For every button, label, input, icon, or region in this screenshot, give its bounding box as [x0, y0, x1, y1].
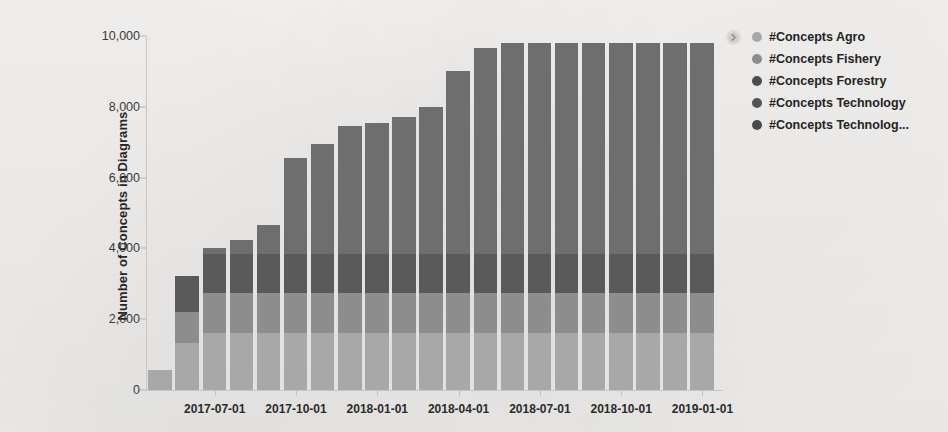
bar-segment[interactable] — [230, 333, 253, 390]
bar-segment[interactable] — [501, 293, 524, 334]
bar-segment[interactable] — [311, 254, 334, 293]
bar-segment[interactable] — [230, 293, 253, 334]
bar-segment[interactable] — [203, 248, 226, 253]
bar-segment[interactable] — [446, 293, 469, 334]
bar-segment[interactable] — [148, 370, 171, 390]
bar-segment[interactable] — [609, 43, 632, 254]
bar-segment[interactable] — [419, 254, 442, 293]
bar-segment[interactable] — [474, 254, 497, 293]
x-axis-tick-label: 2018-01-01 — [347, 402, 408, 416]
bar-segment[interactable] — [528, 254, 551, 293]
bar-segment[interactable] — [419, 107, 442, 254]
x-axis-tick-label: 2017-07-01 — [184, 402, 245, 416]
bar-segment[interactable] — [582, 254, 605, 293]
y-axis-tick-label: 8,000 — [40, 100, 140, 114]
chart-legend[interactable]: #Concepts Agro#Concepts Fishery#Concepts… — [752, 27, 909, 134]
bar-segment[interactable] — [501, 254, 524, 293]
bar-segment[interactable] — [609, 254, 632, 293]
bar-segment[interactable] — [175, 312, 198, 343]
bar-segment[interactable] — [474, 333, 497, 390]
x-axis-tick-mark — [540, 391, 541, 396]
bar-segment[interactable] — [555, 333, 578, 390]
bar-segment[interactable] — [582, 43, 605, 254]
bar-segment[interactable] — [555, 293, 578, 334]
bar-segment[interactable] — [311, 333, 334, 390]
bar-segment[interactable] — [636, 333, 659, 390]
bar-segment[interactable] — [284, 333, 307, 390]
bar-segment[interactable] — [419, 293, 442, 334]
bar-segment[interactable] — [175, 343, 198, 390]
bar-segment[interactable] — [446, 333, 469, 390]
bar-segment[interactable] — [555, 254, 578, 293]
bar-segment[interactable] — [663, 333, 686, 390]
legend-item[interactable]: #Concepts Agro — [752, 27, 909, 46]
bar-segment[interactable] — [528, 293, 551, 334]
bar-segment[interactable] — [392, 254, 415, 293]
legend-item[interactable]: #Concepts Fishery — [752, 49, 909, 68]
bar-segment[interactable] — [338, 126, 361, 253]
bar-segment[interactable] — [636, 43, 659, 254]
legend-swatch-icon — [752, 120, 762, 130]
bar-segment[interactable] — [690, 43, 713, 254]
bar-segment[interactable] — [257, 254, 280, 293]
bar-segment[interactable] — [284, 158, 307, 254]
bar-segment[interactable] — [636, 254, 659, 293]
bar-segment[interactable] — [474, 48, 497, 253]
bar-segment[interactable] — [528, 43, 551, 254]
bar-segment[interactable] — [365, 293, 388, 334]
legend-expand-icon[interactable] — [726, 30, 741, 45]
bar-segment[interactable] — [419, 333, 442, 390]
bar-segment[interactable] — [203, 254, 226, 293]
bar-segment[interactable] — [446, 71, 469, 253]
bar-segment[interactable] — [203, 293, 226, 334]
bar-segment[interactable] — [257, 225, 280, 254]
bar-segment[interactable] — [230, 240, 253, 254]
bar-segment[interactable] — [230, 254, 253, 293]
x-axis-tick-mark — [459, 391, 460, 396]
bar-segment[interactable] — [257, 293, 280, 334]
bar-segment[interactable] — [501, 333, 524, 390]
bar-segment[interactable] — [257, 333, 280, 390]
bar-segment[interactable] — [663, 254, 686, 293]
bar-segment[interactable] — [636, 293, 659, 334]
legend-item[interactable]: #Concepts Forestry — [752, 71, 909, 90]
bar-segment[interactable] — [338, 293, 361, 334]
bar-segment[interactable] — [365, 254, 388, 293]
bar-segment[interactable] — [528, 333, 551, 390]
legend-swatch-icon — [752, 32, 762, 42]
bar-segment[interactable] — [446, 254, 469, 293]
legend-item-label: #Concepts Agro — [769, 30, 865, 44]
x-axis-tick-label: 2018-04-01 — [428, 402, 489, 416]
bar-segment[interactable] — [284, 293, 307, 334]
bar-segment[interactable] — [501, 43, 524, 254]
bar-segment[interactable] — [284, 254, 307, 293]
y-axis-tick-label: 6,000 — [40, 171, 140, 185]
bar-segment[interactable] — [311, 144, 334, 254]
bar-segment[interactable] — [365, 123, 388, 254]
bar-segment[interactable] — [609, 293, 632, 334]
bar-segment[interactable] — [690, 333, 713, 390]
legend-item[interactable]: #Concepts Technology — [752, 93, 909, 112]
bar-segment[interactable] — [392, 293, 415, 334]
bar-segment[interactable] — [203, 333, 226, 390]
bar-segment[interactable] — [392, 333, 415, 390]
x-axis-tick-mark — [377, 391, 378, 396]
bar-segment[interactable] — [690, 254, 713, 293]
legend-item[interactable]: #Concepts Technolog... — [752, 115, 909, 134]
bar-segment[interactable] — [175, 276, 198, 312]
bar-segment[interactable] — [338, 254, 361, 293]
bar-segment[interactable] — [582, 333, 605, 390]
bar-segment[interactable] — [663, 293, 686, 334]
legend-swatch-icon — [752, 54, 762, 64]
bar-segment[interactable] — [338, 333, 361, 390]
bar-segment[interactable] — [474, 293, 497, 334]
bar-segment[interactable] — [663, 43, 686, 254]
bar-segment[interactable] — [582, 293, 605, 334]
bar-segment[interactable] — [365, 333, 388, 390]
bar-segment[interactable] — [311, 293, 334, 334]
bar-segment[interactable] — [609, 333, 632, 390]
x-axis-tick-mark — [215, 391, 216, 396]
bar-segment[interactable] — [392, 117, 415, 253]
bar-segment[interactable] — [555, 43, 578, 254]
bar-segment[interactable] — [690, 293, 713, 334]
